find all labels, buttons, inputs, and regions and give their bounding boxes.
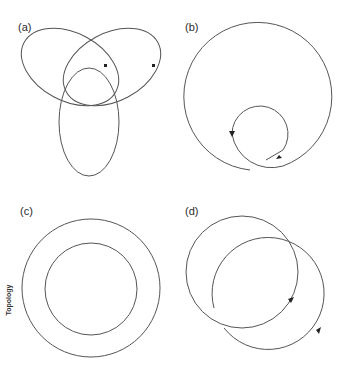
panel-label-c: (c) xyxy=(20,205,33,217)
panel-d-overlap xyxy=(186,216,324,349)
panel-b-curl xyxy=(184,22,332,170)
arrow-d2-icon xyxy=(316,327,321,334)
panel-a-trefoil xyxy=(8,13,174,176)
arrow-down-icon xyxy=(229,131,235,137)
figure-canvas xyxy=(0,0,344,371)
panel-c-concentric xyxy=(22,219,160,357)
panel-label-b: (b) xyxy=(185,21,198,33)
marker-a1-icon xyxy=(104,64,107,67)
marker-a2-icon xyxy=(152,64,155,67)
panel-label-d: (d) xyxy=(185,205,198,217)
arrow-up-right-icon xyxy=(276,155,282,159)
topology-figure: (a) (b) (c) (d) Topology xyxy=(0,0,344,371)
panel-label-a: (a) xyxy=(18,21,31,33)
topology-axis-label: Topology xyxy=(0,278,16,322)
